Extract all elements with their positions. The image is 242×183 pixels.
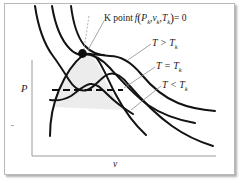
kpoint-annotation-label: K point f(Pk,vk,Tk)= 0 xyxy=(104,11,187,25)
y-axis-tick xyxy=(11,125,14,126)
t-gt-symbol: T xyxy=(152,37,157,48)
critical-point-marker xyxy=(78,49,87,58)
close-paren: ) xyxy=(170,11,174,25)
t-eq-ref-subscript: k xyxy=(179,66,182,73)
t-lt-relation: < xyxy=(170,79,177,90)
isotherm-curve-below-critical xyxy=(35,6,213,146)
kpoint-leader-dashed xyxy=(84,16,89,49)
equals-zero: = 0 xyxy=(174,13,186,23)
isotherm-label-above-critical: T > Tk xyxy=(152,38,178,51)
x-axis-label: v xyxy=(113,160,117,170)
pv-isotherm-plot xyxy=(0,0,242,183)
kpoint-leader-line xyxy=(88,21,104,50)
t-eq-symbol: T xyxy=(156,60,161,71)
t-lt-ref-subscript: k xyxy=(185,85,188,92)
y-axis-label: P xyxy=(21,84,27,95)
kpoint-name-text: K point xyxy=(104,13,133,23)
leader-t-greater xyxy=(128,44,151,60)
t-gt-relation: > xyxy=(160,37,167,48)
t-lt-symbol: T xyxy=(162,79,167,90)
leader-t-less xyxy=(131,86,161,110)
figure-root: K point f(Pk,vk,Tk)= 0 T > Tk T = Tk T <… xyxy=(0,0,242,183)
t-gt-ref-subscript: k xyxy=(175,43,178,50)
isotherm-label-critical: T = Tk xyxy=(156,61,182,74)
open-paren: ( xyxy=(137,11,141,25)
isotherm-label-below-critical: T < Tk xyxy=(162,80,188,93)
t-eq-relation: = xyxy=(164,60,171,71)
coexistence-region-shading xyxy=(53,55,124,110)
